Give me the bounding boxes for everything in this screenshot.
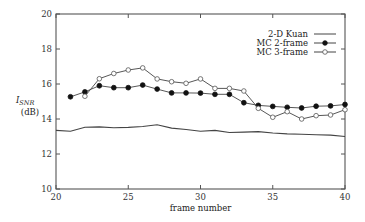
- data-point-marker: [198, 77, 203, 82]
- legend-marker-icon: [323, 50, 328, 55]
- legend-label: MC 3-frame: [256, 47, 308, 57]
- data-point-marker: [343, 102, 348, 107]
- legend: 2-D KuanMC 2-frameMC 3-frame: [256, 29, 336, 57]
- data-point-marker: [126, 68, 131, 73]
- y-axis-title-unit: (dB): [21, 107, 39, 117]
- x-tick-label: 20: [51, 192, 62, 202]
- data-point-marker: [83, 94, 88, 99]
- data-point-marker: [285, 109, 290, 114]
- y-tick-label: 14: [41, 114, 52, 124]
- svg-text:ISNR: ISNR: [15, 95, 34, 107]
- line-chart: 101214161820 2025303540 frame number ISN…: [0, 0, 365, 222]
- data-point-marker: [314, 113, 319, 118]
- data-point-marker: [314, 104, 319, 109]
- series-2-d-kuan: [56, 125, 345, 137]
- data-point-marker: [299, 106, 304, 111]
- data-point-marker: [198, 91, 203, 96]
- data-point-marker: [256, 106, 261, 111]
- series-mc-2-frame: [68, 83, 347, 111]
- data-point-marker: [213, 86, 218, 91]
- data-point-marker: [184, 81, 189, 86]
- data-point-marker: [155, 87, 160, 92]
- x-tick-label: 25: [123, 192, 134, 202]
- data-point-marker: [343, 107, 348, 112]
- data-point-marker: [270, 104, 275, 109]
- data-point-marker: [241, 100, 246, 105]
- x-axis-title: frame number: [170, 203, 233, 213]
- data-point-marker: [97, 83, 102, 88]
- data-point-marker: [68, 94, 73, 99]
- data-point-marker: [328, 113, 333, 118]
- x-tick-label: 40: [340, 192, 351, 202]
- y-tick-label: 16: [41, 79, 52, 89]
- data-point-marker: [111, 85, 116, 90]
- data-point-marker: [169, 79, 174, 84]
- data-point-marker: [184, 91, 189, 96]
- data-point-marker: [140, 83, 145, 88]
- data-point-marker: [155, 77, 160, 82]
- y-axis-title-subscript: SNR: [19, 99, 34, 107]
- x-tick-label: 30: [195, 192, 206, 202]
- data-point-marker: [97, 76, 102, 81]
- data-point-marker: [126, 85, 131, 90]
- data-point-marker: [140, 66, 145, 71]
- y-axis-title: ISNR (dB): [15, 95, 39, 117]
- y-tick-label: 18: [41, 44, 52, 54]
- legend-item: MC 3-frame: [256, 47, 336, 57]
- y-tick-label: 20: [41, 9, 52, 19]
- y-tick-label: 12: [41, 149, 52, 159]
- data-point-marker: [169, 91, 174, 96]
- data-point-marker: [328, 103, 333, 108]
- data-point-marker: [270, 115, 275, 120]
- series-line: [56, 125, 345, 137]
- legend-marker-icon: [323, 41, 328, 46]
- data-point-marker: [112, 71, 117, 76]
- data-point-marker: [227, 86, 232, 91]
- data-point-marker: [213, 92, 218, 97]
- data-point-marker: [227, 92, 232, 97]
- data-point-marker: [299, 117, 304, 122]
- series-layer: [56, 66, 347, 137]
- x-tick-label: 35: [267, 192, 278, 202]
- data-point-marker: [242, 89, 247, 94]
